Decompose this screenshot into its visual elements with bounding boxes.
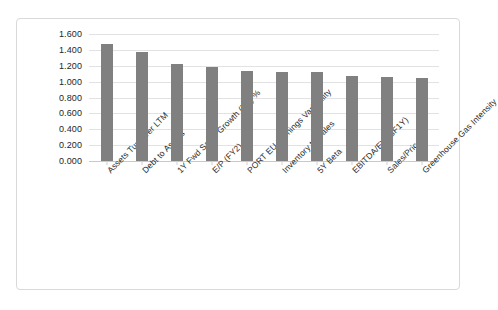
y-axis-tick-label: 0.600 xyxy=(59,108,82,118)
gridline xyxy=(89,34,439,35)
bar xyxy=(311,72,323,161)
bar xyxy=(136,52,148,161)
y-axis-tick-label: 1.400 xyxy=(59,45,82,55)
bar xyxy=(381,77,393,161)
plot-area: 1.6001.4001.2001.0000.8000.6000.4000.200… xyxy=(89,34,439,161)
bar xyxy=(346,76,358,161)
y-axis-tick-label: 0.200 xyxy=(59,140,82,150)
y-axis-tick-label: 0.400 xyxy=(59,124,82,134)
bar xyxy=(101,44,113,161)
bar xyxy=(416,78,428,161)
y-axis-tick-label: 1.200 xyxy=(59,61,82,71)
x-axis-tick-label: Greenhouse Gas Intensity xyxy=(420,96,498,175)
y-axis-tick-label: 1.000 xyxy=(59,77,82,87)
gridline xyxy=(89,50,439,51)
bar xyxy=(276,72,288,161)
y-axis-tick-label: 0.000 xyxy=(59,156,82,166)
chart-frame: 1.6001.4001.2001.0000.8000.6000.4000.200… xyxy=(16,18,460,290)
bar xyxy=(241,71,253,161)
y-axis-tick-label: 0.800 xyxy=(59,93,82,103)
bar xyxy=(171,64,183,161)
bar xyxy=(206,67,218,161)
y-axis-tick-label: 1.600 xyxy=(59,29,82,39)
